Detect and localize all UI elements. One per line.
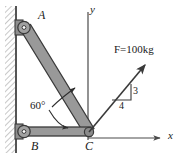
label-point-c: C — [85, 140, 93, 152]
pin-joint-a — [15, 20, 30, 35]
pin-joint-b — [15, 124, 30, 139]
force-vector-f — [89, 65, 145, 132]
wall-support — [5, 6, 16, 153]
label-slope-run: 4 — [119, 101, 124, 111]
label-angle-60: 60° — [30, 100, 45, 111]
figure-container: A B C y x F=100kg 60° 3 4 — [0, 0, 184, 159]
label-axis-y: y — [90, 4, 95, 15]
label-slope-rise: 3 — [133, 86, 138, 96]
label-axis-x: x — [168, 130, 173, 141]
member-bc — [21, 127, 91, 136]
label-point-a: A — [38, 9, 45, 21]
member-ac — [22, 25, 95, 136]
label-force-magnitude: F=100kg — [114, 44, 154, 55]
truss-diagram — [0, 0, 184, 159]
label-point-b: B — [31, 140, 38, 152]
